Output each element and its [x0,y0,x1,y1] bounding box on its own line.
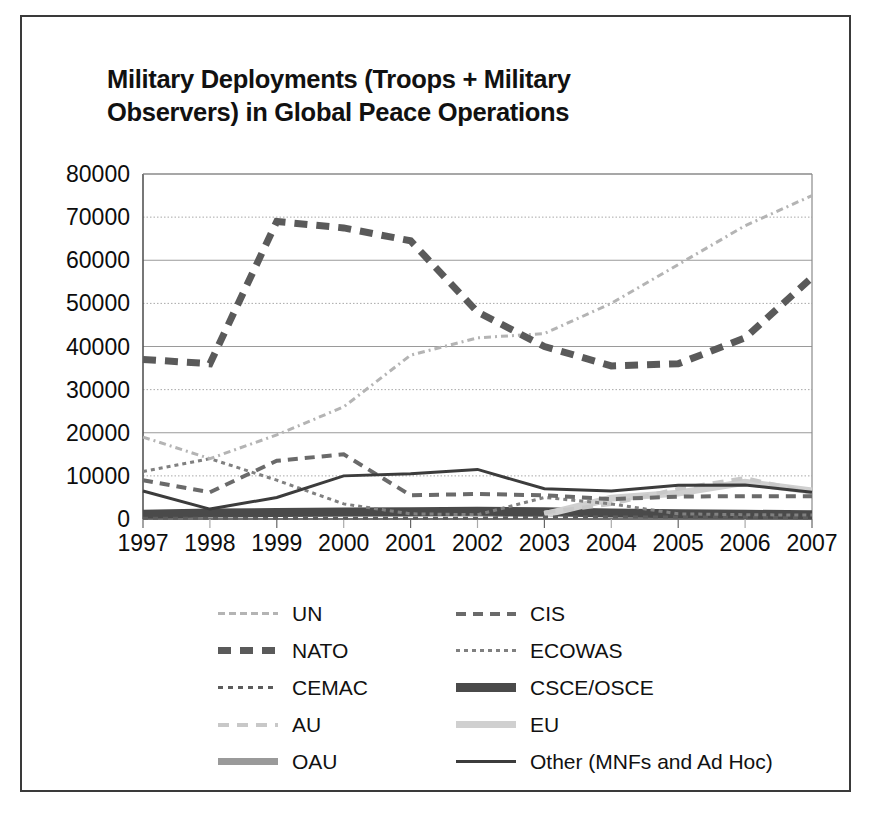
legend-swatch-icon [456,683,516,692]
y-tick-60000: 60000 [66,247,130,273]
legend-item-cemac[interactable]: CEMAC [218,669,368,706]
x-tick-2001: 2001 [385,530,436,556]
x-tick-2000: 2000 [318,530,369,556]
legend-label: AU [292,713,321,737]
legend-item-un[interactable]: UN [218,595,368,632]
y-tick-70000: 70000 [66,204,130,230]
legend-label: UN [292,602,322,626]
legend-label: CSCE/OSCE [530,676,654,700]
legend-label: EU [530,713,559,737]
legend-label: CEMAC [292,676,368,700]
x-tick-1999: 1999 [251,530,302,556]
legend-label: ECOWAS [530,639,623,663]
legend-item-ecowas[interactable]: ECOWAS [456,632,773,669]
x-tick-2004: 2004 [586,530,637,556]
legend-item-csce-osce[interactable]: CSCE/OSCE [456,669,773,706]
legend-label: Other (MNFs and Ad Hoc) [530,750,773,774]
legend-column-left: UNNATOCEMACAUOAU [218,595,368,780]
figure-border: Military Deployments (Troops + Military … [20,15,851,792]
legend-swatch-icon [218,723,278,727]
legend-swatch-icon [218,686,278,689]
line-chart-plot: 8000070000600005000040000300002000010000… [22,17,849,577]
legend-label: NATO [292,639,348,663]
series-lines [143,196,812,519]
y-tick-10000: 10000 [66,463,130,489]
y-tick-80000: 80000 [66,161,130,187]
legend-item-nato[interactable]: NATO [218,632,368,669]
gridlines [143,174,812,519]
x-tick-2006: 2006 [720,530,771,556]
legend-swatch-icon [218,612,278,615]
series-line-cis [143,454,812,499]
x-tick-1998: 1998 [184,530,235,556]
x-tick-2007: 2007 [786,530,837,556]
y-tick-20000: 20000 [66,420,130,446]
y-tick-30000: 30000 [66,377,130,403]
legend-item-eu[interactable]: EU [456,706,773,743]
y-axis-tick-labels: 8000070000600005000040000300002000010000… [66,161,130,532]
legend-label: CIS [530,602,565,626]
series-line-un [143,196,812,459]
legend-swatch-icon [218,647,278,654]
legend-item-other-mnfs-and-ad-hoc[interactable]: Other (MNFs and Ad Hoc) [456,743,773,780]
x-tick-2002: 2002 [452,530,503,556]
x-tick-2003: 2003 [519,530,570,556]
legend-item-cis[interactable]: CIS [456,595,773,632]
y-tick-40000: 40000 [66,334,130,360]
x-tick-1997: 1997 [117,530,168,556]
y-tick-0: 0 [117,506,130,532]
legend-column-right: CISECOWASCSCE/OSCEEUOther (MNFs and Ad H… [456,595,773,780]
y-tick-50000: 50000 [66,290,130,316]
legend-swatch-icon [218,758,278,765]
series-line-nato [143,221,812,365]
chart-figure: Military Deployments (Troops + Military … [0,0,870,815]
legend-swatch-icon [456,612,516,616]
legend-swatch-icon [456,721,516,728]
legend-label: OAU [292,750,338,774]
x-axis-tick-labels: 1997199819992000200120022003200420052006… [117,530,837,556]
x-tick-2005: 2005 [653,530,704,556]
legend-item-au[interactable]: AU [218,706,368,743]
legend-item-oau[interactable]: OAU [218,743,368,780]
legend-swatch-icon [456,760,516,763]
legend-swatch-icon [456,649,516,652]
